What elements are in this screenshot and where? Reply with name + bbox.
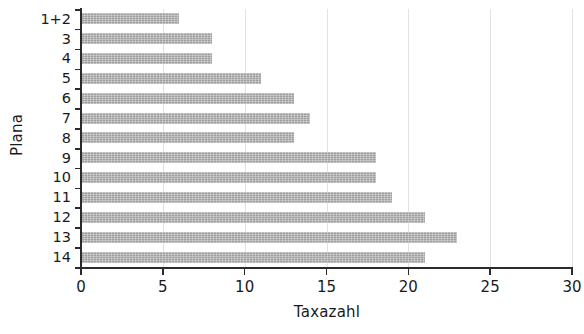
y-tick-mark (75, 247, 81, 249)
y-tick-label: 8 (28, 128, 76, 148)
y-tick-label: 14 (28, 247, 76, 267)
y-axis-tick-labels: 1+2 3 4 5 6 7 8 9 10 11 12 13 14 (28, 9, 76, 267)
bar (81, 132, 294, 143)
y-axis-title-text: Plana (8, 114, 26, 156)
x-tick-label: 20 (388, 278, 428, 296)
x-tick-mark (408, 268, 410, 275)
bar (81, 232, 457, 243)
x-tick-mark (244, 268, 246, 275)
bar-row (81, 247, 573, 267)
bar-row (81, 227, 573, 247)
x-tick-mark (162, 268, 164, 275)
bar-row (81, 29, 573, 49)
x-tick-mark (489, 268, 491, 275)
bar (81, 73, 261, 84)
y-tick-label: 5 (28, 69, 76, 89)
y-axis-line (80, 8, 82, 268)
bar (81, 252, 425, 263)
y-tick-mark (75, 148, 81, 150)
y-tick-mark (75, 108, 81, 110)
bar (81, 13, 179, 24)
bar-chart: Plana 1+2 3 4 5 6 7 8 9 10 11 12 13 14 (0, 0, 584, 334)
bar-row (81, 148, 573, 168)
y-tick-label: 6 (28, 88, 76, 108)
bar-row (81, 9, 573, 29)
bars-layer (81, 9, 573, 267)
y-tick-label: 7 (28, 108, 76, 128)
x-tick-mark (326, 268, 328, 275)
bar (81, 172, 376, 183)
x-tick-mark (571, 268, 573, 275)
bar (81, 212, 425, 223)
plot-area (81, 9, 573, 267)
bar (81, 152, 376, 163)
x-tick-label: 30 (552, 278, 584, 296)
bar-row (81, 207, 573, 227)
y-tick-mark (75, 207, 81, 209)
bar (81, 53, 212, 64)
y-tick-mark (75, 168, 81, 170)
y-tick-label: 10 (28, 168, 76, 188)
y-tick-mark (75, 227, 81, 229)
x-tick-label: 15 (307, 278, 347, 296)
y-tick-label: 12 (28, 207, 76, 227)
x-tick-label: 25 (470, 278, 510, 296)
bar-row (81, 188, 573, 208)
y-tick-mark (75, 88, 81, 90)
x-tick-label: 10 (225, 278, 265, 296)
y-tick-mark (75, 29, 81, 31)
y-tick-label: 1+2 (28, 9, 76, 29)
x-tick-label: 5 (143, 278, 183, 296)
bar (81, 113, 310, 124)
y-tick-label: 11 (28, 188, 76, 208)
bar-row (81, 69, 573, 89)
x-axis-title: Taxazahl (81, 303, 573, 321)
bar-row (81, 108, 573, 128)
y-tick-mark (75, 9, 81, 11)
bar-row (81, 49, 573, 69)
bar (81, 93, 294, 104)
x-tick-label: 0 (61, 278, 101, 296)
bar (81, 33, 212, 44)
y-tick-label: 13 (28, 227, 76, 247)
y-tick-label: 3 (28, 29, 76, 49)
bar-row (81, 88, 573, 108)
y-tick-mark (75, 188, 81, 190)
bar-row (81, 168, 573, 188)
bar-row (81, 128, 573, 148)
y-tick-mark (75, 69, 81, 71)
y-tick-label: 4 (28, 49, 76, 69)
bar (81, 192, 392, 203)
x-tick-mark (80, 268, 82, 275)
y-tick-label: 9 (28, 148, 76, 168)
y-tick-mark (75, 128, 81, 130)
y-tick-mark (75, 49, 81, 51)
